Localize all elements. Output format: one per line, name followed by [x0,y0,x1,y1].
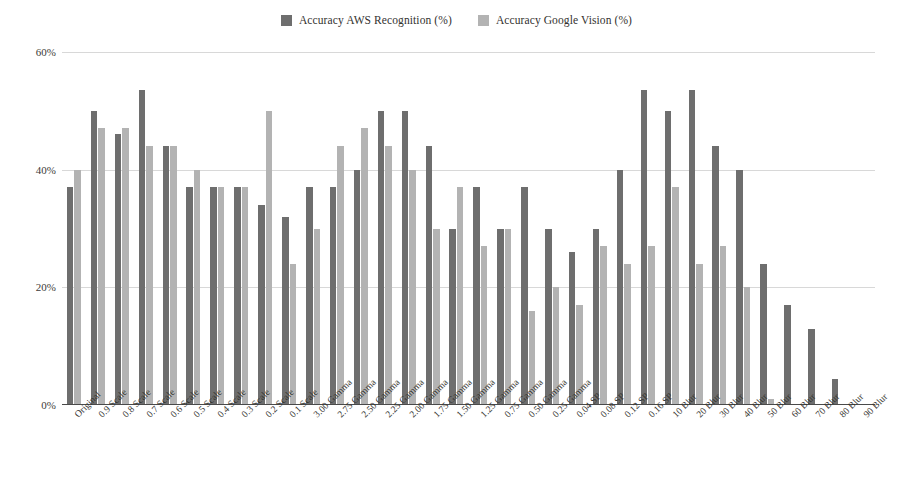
x-axis-tick: 2.75 Gamma [325,409,349,481]
x-axis-tick: 10 Blur [660,409,684,481]
bar-group [684,52,708,405]
legend-label-google-vision: Accuracy Google Vision (%) [496,14,632,26]
bar[interactable] [696,264,703,405]
bar[interactable] [306,187,313,405]
y-axis-tick-label: 40% [10,164,56,176]
bar[interactable] [163,146,170,405]
bar[interactable] [258,205,265,405]
bar-group [564,52,588,405]
bar-group [421,52,445,405]
bar[interactable] [784,305,791,405]
bar[interactable] [194,170,201,405]
bar[interactable] [330,187,337,405]
bar[interactable] [665,111,672,405]
x-axis-tick: 0.2 Scale [253,409,277,481]
bar[interactable] [354,170,361,405]
bar-group [349,52,373,405]
bar[interactable] [617,170,624,405]
bar[interactable] [74,170,81,405]
bar[interactable] [67,187,74,405]
legend-item-google-vision[interactable]: Accuracy Google Vision (%) [478,14,632,26]
bar[interactable] [218,187,225,405]
bar[interactable] [146,146,153,405]
bar[interactable] [736,170,743,405]
plot-area [62,52,875,405]
bar[interactable] [234,187,241,405]
bar[interactable] [689,90,696,405]
bar[interactable] [122,128,129,405]
bar[interactable] [266,111,273,405]
bar[interactable] [290,264,297,405]
bar[interactable] [712,146,719,405]
bar-group [62,52,86,405]
legend-swatch-google-vision [478,15,489,26]
x-axis-tick: 0.75 Gamma [492,409,516,481]
legend-item-aws[interactable]: Accuracy AWS Recognition (%) [281,14,452,26]
bar[interactable] [115,134,122,405]
bar-group [373,52,397,405]
bar[interactable] [210,187,217,405]
x-axis-tick: 0.6 Scale [158,409,182,481]
bar[interactable] [744,287,751,405]
bar[interactable] [641,90,648,405]
bar[interactable] [139,90,146,405]
bar-group [182,52,206,405]
bar[interactable] [593,229,600,406]
x-axis-tick: 3.00 Gamma [301,409,325,481]
bar[interactable] [433,229,440,406]
x-axis-tick: 50 Blur [755,409,779,481]
x-axis-tick: 0.04 SP [564,409,588,481]
x-axis-tick: 0.12 SP [612,409,636,481]
x-axis-tick: 0.4 Scale [205,409,229,481]
bar[interactable] [760,264,767,405]
bar[interactable] [409,170,416,405]
bar[interactable] [457,187,464,405]
bar[interactable] [402,111,409,405]
bar[interactable] [449,229,456,406]
bar[interactable] [426,146,433,405]
bar[interactable] [497,229,504,406]
x-axis-tick: 20 Blur [684,409,708,481]
bar[interactable] [170,146,177,405]
x-axis-tick: 90 Blur [851,409,875,481]
bar[interactable] [282,217,289,405]
bar[interactable] [505,229,512,406]
bar-chart: Accuracy AWS Recognition (%) Accuracy Go… [0,0,913,482]
bar[interactable] [337,146,344,405]
bar[interactable] [521,187,528,405]
bar[interactable] [385,146,392,405]
bar[interactable] [569,252,576,405]
bar[interactable] [624,264,631,405]
x-axis-tick: 0.7 Scale [134,409,158,481]
bar-group [731,52,755,405]
bar[interactable] [98,128,105,405]
x-axis-tick: 1.25 Gamma [468,409,492,481]
bar[interactable] [672,187,679,405]
bar[interactable] [186,187,193,405]
bar[interactable] [361,128,368,405]
bar[interactable] [91,111,98,405]
legend-label-aws: Accuracy AWS Recognition (%) [299,14,452,26]
x-axis-tick: 2.00 Gamma [397,409,421,481]
x-axis-tick: 0.08 SP [588,409,612,481]
bar-group [612,52,636,405]
x-axis-tick: 0.16 SP [636,409,660,481]
bar-group [660,52,684,405]
bar[interactable] [378,111,385,405]
bar[interactable] [242,187,249,405]
bar[interactable] [545,229,552,406]
x-axis-tick: 40 Blur [731,409,755,481]
x-axis-tick: 2.25 Gamma [373,409,397,481]
bar-group [516,52,540,405]
bar[interactable] [314,229,321,406]
bar-group [277,52,301,405]
y-axis-tick-label: 60% [10,46,56,58]
bar-group [301,52,325,405]
x-axis-tick: 0.50 Gamma [516,409,540,481]
bar-group [492,52,516,405]
bar[interactable] [600,246,607,405]
bar[interactable] [720,246,727,405]
bar[interactable] [648,246,655,405]
bar-group [205,52,229,405]
bar[interactable] [473,187,480,405]
